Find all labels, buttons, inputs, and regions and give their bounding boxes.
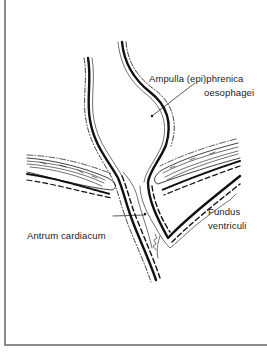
label-ampulla-line1: Ampulla (epi)phrenica	[149, 73, 244, 84]
antrum-pointer-dot	[144, 213, 146, 215]
ampulla-pointer-dot	[151, 115, 153, 117]
esophagus-diagram	[0, 0, 267, 353]
label-fundus-line1: Fundus	[208, 206, 240, 217]
label-fundus-line2: ventriculi	[208, 220, 247, 231]
label-ampulla-line2: oesophagei	[204, 87, 254, 98]
label-antrum: Antrum cardiacum	[27, 230, 106, 241]
